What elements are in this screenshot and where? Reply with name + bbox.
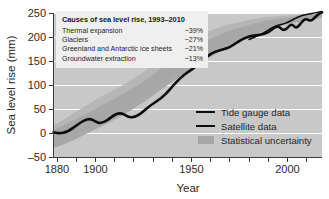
legend-item-satellite: Satellite data <box>196 119 324 133</box>
cause-value: ~39% <box>185 27 203 36</box>
y-tick-label-minus50: –50 <box>28 151 46 163</box>
y-axis-title: Sea level rise (mm) <box>5 35 17 134</box>
y-tick-label-0: 0 <box>40 127 46 139</box>
y-tick-label-50: 50 <box>34 103 46 115</box>
line-swatch-icon <box>196 111 215 114</box>
cause-row: Groundwater extraction ~13% <box>62 55 203 64</box>
legend-label: Statistical uncertainty <box>221 135 312 146</box>
x-tick-label-1880: 1880 <box>45 163 69 175</box>
cause-label: Thermal expansion <box>62 27 128 36</box>
chart-legend: Tide gauge data Satellite data Statistic… <box>196 105 324 147</box>
sea-level-rise-chart: 250 200 150 100 50 0 –50 1880 1900 1950 … <box>0 0 329 199</box>
x-axis-title: Year <box>176 182 199 194</box>
line-swatch-icon <box>196 125 215 127</box>
x-axis-ticks <box>57 157 307 162</box>
cause-row: Glaciers ~27% <box>62 36 203 45</box>
legend-item-uncertainty: Statistical uncertainty <box>196 133 324 147</box>
cause-value: ~13% <box>185 55 203 64</box>
x-tick-label-2000: 2000 <box>275 163 299 175</box>
causes-callout-box: Causes of sea level rise, 1993–2010 Ther… <box>56 11 208 68</box>
x-tick-label-1900: 1900 <box>83 163 107 175</box>
cause-row: Greenland and Antarctic ice sheets ~21% <box>62 45 203 54</box>
y-tick-label-150: 150 <box>28 55 46 67</box>
legend-label: Satellite data <box>221 121 276 132</box>
legend-label: Tide gauge data <box>221 107 290 118</box>
cause-value: ~27% <box>185 36 203 45</box>
legend-item-tide-gauge: Tide gauge data <box>196 105 324 119</box>
band-swatch-icon <box>196 136 215 144</box>
cause-label: Groundwater extraction <box>62 55 142 64</box>
y-axis-ticks <box>49 13 53 157</box>
cause-label: Greenland and Antarctic ice sheets <box>62 45 178 54</box>
cause-label: Glaciers <box>62 36 94 45</box>
callout-title: Causes of sea level rise, 1993–2010 <box>62 15 203 24</box>
y-tick-label-250: 250 <box>28 7 46 19</box>
x-tick-label-1950: 1950 <box>179 163 203 175</box>
y-tick-label-200: 200 <box>28 31 46 43</box>
y-tick-label-100: 100 <box>28 79 46 91</box>
cause-value: ~21% <box>185 45 203 54</box>
cause-row: Thermal expansion ~39% <box>62 27 203 36</box>
